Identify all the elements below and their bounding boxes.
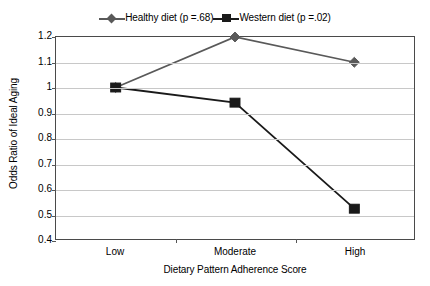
legend-marker-diamond-icon — [99, 12, 125, 24]
x-axis-tickmark — [176, 239, 177, 243]
data-point-square — [349, 204, 359, 213]
y-axis-tickmark — [52, 216, 56, 217]
y-axis-tickmark — [52, 165, 56, 166]
gridline — [56, 216, 414, 217]
x-axis-tick-label: Low — [106, 246, 124, 258]
x-axis-tickmark — [296, 239, 297, 243]
legend-entry-western-diet: Western diet (p =.02) — [213, 12, 330, 24]
y-axis-tick-label: 1.2 — [24, 31, 52, 41]
y-axis-tickmark — [52, 114, 56, 115]
data-point-square — [230, 98, 240, 107]
y-axis-tick-label: 1 — [24, 82, 52, 92]
gridline — [56, 139, 414, 140]
legend-label-western-diet: Western diet (p =.02) — [239, 12, 330, 24]
x-axis-tick-label: Moderate — [214, 246, 256, 258]
y-axis-tick-label: 0.7 — [24, 159, 52, 169]
y-axis-tick-label: 0.8 — [24, 133, 52, 143]
y-axis-tickmark — [52, 241, 56, 242]
y-axis-tickmark — [52, 88, 56, 89]
series-lines — [56, 37, 414, 239]
gridline — [56, 114, 414, 115]
y-axis-tick-labels: 1.21.110.90.80.70.60.50.4 — [20, 0, 52, 286]
y-axis-tick-label: 0.5 — [24, 210, 52, 220]
y-axis-tickmark — [52, 63, 56, 64]
chart-legend: Healthy diet (p =.68) Western diet (p =.… — [0, 9, 430, 27]
y-axis-tick-label: 0.6 — [24, 184, 52, 194]
y-axis-tick-label: 0.4 — [24, 235, 52, 245]
y-axis-tick-label: 0.9 — [24, 108, 52, 118]
y-axis-tick-label: 1.1 — [24, 57, 52, 67]
plot-area — [55, 36, 415, 240]
x-axis-tick-label: High — [345, 246, 366, 258]
chart-container: Healthy diet (p =.68) Western diet (p =.… — [0, 0, 430, 286]
y-axis-tickmark — [52, 190, 56, 191]
legend-label-healthy-diet: Healthy diet (p =.68) — [125, 12, 213, 24]
gridline — [56, 165, 414, 166]
y-axis-tickmark — [52, 139, 56, 140]
x-axis-tick-labels: LowModerateHigh — [55, 246, 415, 260]
legend-marker-square-icon — [213, 12, 239, 24]
x-axis-title: Dietary Pattern Adherence Score — [55, 264, 415, 275]
y-axis-tickmark — [52, 37, 56, 38]
data-point-diamond — [230, 32, 240, 42]
legend-entry-healthy-diet: Healthy diet (p =.68) — [99, 12, 213, 24]
y-axis-title-text: Odds Ratio of Ideal Aging — [8, 78, 19, 189]
gridline — [56, 63, 414, 64]
gridline — [56, 190, 414, 191]
gridline — [56, 88, 414, 89]
